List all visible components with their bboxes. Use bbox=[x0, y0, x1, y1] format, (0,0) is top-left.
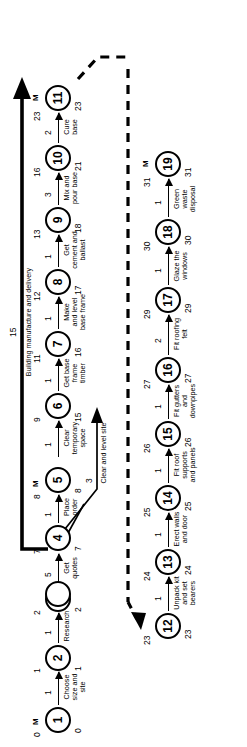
node-5-earliest: 8 bbox=[32, 494, 42, 499]
arrow-14-15 bbox=[168, 449, 169, 483]
node-7-earliest: 11 bbox=[32, 354, 42, 363]
arrow-10-11 bbox=[58, 113, 59, 143]
node-10-latest: 21 bbox=[73, 162, 83, 171]
arrow-3-4 bbox=[58, 554, 59, 584]
arrow-5-6 bbox=[58, 421, 59, 457]
node-2[interactable]: 2 bbox=[45, 645, 71, 671]
duration-3-4: 5 bbox=[43, 572, 53, 577]
activity-label-3-4: Get quotes bbox=[63, 549, 79, 587]
node-1[interactable]: 1 bbox=[45, 707, 71, 733]
arrow-16-17 bbox=[168, 315, 169, 355]
activity-label-6-7: Get base frame timber bbox=[63, 351, 88, 395]
pert-network-diagram: 1 0 M 0 1 Choose size and site 2 1 1 1 R… bbox=[0, 0, 247, 747]
arrow-2-3 bbox=[58, 613, 59, 643]
duration-17-18: 1 bbox=[153, 268, 163, 273]
node-3-earliest: 2 bbox=[32, 610, 42, 615]
node-13-earliest: 24 bbox=[142, 572, 152, 581]
duration-14-15: 1 bbox=[153, 468, 163, 473]
node-2-latest: 1 bbox=[73, 666, 83, 671]
node-8-earliest: 12 bbox=[32, 292, 42, 301]
node-19[interactable]: 19 bbox=[155, 151, 181, 177]
node-1-latest: 0 bbox=[73, 728, 83, 733]
duration-5-6: 1 bbox=[43, 442, 53, 447]
activity-label-18-19: Green waste disposal bbox=[173, 175, 198, 223]
node-6[interactable]: 6 bbox=[45, 393, 71, 419]
node-14-latest: 25 bbox=[183, 502, 193, 511]
node-4-earliest: 7 bbox=[32, 549, 42, 554]
node-11-milestone-flag: M bbox=[31, 94, 40, 101]
duration-8-9: 1 bbox=[43, 254, 53, 259]
duration-12-13: 1 bbox=[153, 596, 163, 601]
duration-1-2: 1 bbox=[43, 690, 53, 695]
activity-label-17-18: Glaze the windows bbox=[173, 241, 189, 291]
duration-13-14: 1 bbox=[153, 532, 163, 537]
activity-label-5-11: Building manufacture and delivery bbox=[25, 227, 33, 417]
arrow-8-9 bbox=[58, 235, 59, 267]
node-14[interactable]: 14 bbox=[155, 485, 181, 511]
node-7-latest: 16 bbox=[73, 348, 83, 357]
node-16-earliest: 27 bbox=[142, 380, 152, 389]
node-12[interactable]: 12 bbox=[155, 613, 181, 639]
activity-label-10-11: Cure base bbox=[63, 107, 79, 147]
duration-15-16: 1 bbox=[153, 404, 163, 409]
arrow-12-13 bbox=[168, 577, 169, 611]
activity-label-9-10: Mix and pour base bbox=[63, 165, 79, 211]
node-1-earliest: 0 bbox=[32, 732, 42, 737]
node-7[interactable]: 7 bbox=[45, 331, 71, 357]
node-15-earliest: 26 bbox=[142, 444, 152, 453]
node-18-earliest: 30 bbox=[142, 242, 152, 251]
node-15-latest: 26 bbox=[183, 438, 193, 447]
node-15[interactable]: 15 bbox=[155, 421, 181, 447]
duration-2-3: 1 bbox=[43, 630, 53, 635]
node-5[interactable]: 5 bbox=[45, 467, 71, 493]
node-12-latest: 23 bbox=[183, 630, 193, 639]
arrow-9-10 bbox=[58, 173, 59, 205]
node-19-latest: 31 bbox=[183, 168, 193, 177]
node-13-latest: 24 bbox=[183, 566, 193, 575]
activity-label-8-9: Get cement and ballast bbox=[63, 227, 88, 273]
arrow-7-8 bbox=[58, 297, 59, 329]
node-5-latest: 8 bbox=[73, 488, 83, 493]
node-9[interactable]: 9 bbox=[45, 207, 71, 233]
node-19-earliest: 31 bbox=[142, 178, 152, 187]
node-17-earliest: 29 bbox=[142, 310, 152, 319]
node-14-earliest: 25 bbox=[142, 508, 152, 517]
duration-6-7: 1 bbox=[43, 378, 53, 383]
activity-label-1-2: Choose size and site bbox=[63, 667, 88, 707]
node-4[interactable]: 4 bbox=[45, 525, 71, 551]
duration-5-11: 15 bbox=[8, 328, 18, 337]
node-11[interactable]: 11 bbox=[45, 85, 71, 111]
node-10[interactable]: 10 bbox=[45, 145, 71, 171]
node-6-latest: 15 bbox=[73, 413, 83, 422]
activity-label-2-3: Research bbox=[63, 605, 71, 647]
duration-4-5: 1 bbox=[43, 512, 53, 517]
duration-18-19: 1 bbox=[153, 200, 163, 205]
node-17-latest: 29 bbox=[183, 304, 193, 313]
duration-5-7: 3 bbox=[84, 478, 94, 483]
activity-label-4-5: Place order bbox=[63, 489, 79, 525]
node-17[interactable]: 17 bbox=[155, 287, 181, 313]
node-18[interactable]: 18 bbox=[155, 219, 181, 245]
node-4-spacer bbox=[45, 581, 71, 607]
node-13[interactable]: 13 bbox=[155, 549, 181, 575]
node-3-latest: 2 bbox=[73, 607, 83, 612]
node-6-earliest: 9 bbox=[32, 417, 42, 422]
node-11-latest: 23 bbox=[73, 102, 83, 111]
arrow-15-16 bbox=[168, 385, 169, 419]
activity-label-5-7: Clear and level site bbox=[100, 405, 108, 501]
arrow-13-14 bbox=[168, 513, 169, 547]
activity-label-13-14: Erect walls and door bbox=[173, 505, 189, 553]
node-11-earliest: 23 bbox=[32, 112, 42, 121]
node-16[interactable]: 16 bbox=[155, 357, 181, 383]
node-2-earliest: 1 bbox=[32, 668, 42, 673]
arrow-18-19 bbox=[168, 179, 169, 217]
arrow-4-5 bbox=[58, 495, 59, 523]
duration-16-17: 2 bbox=[153, 338, 163, 343]
node-5-milestone-flag: M bbox=[31, 480, 40, 487]
duration-10-11: 2 bbox=[43, 130, 53, 135]
arrow-17-18 bbox=[168, 247, 169, 285]
node-1-milestone-flag: M bbox=[31, 718, 40, 725]
node-8[interactable]: 8 bbox=[45, 269, 71, 295]
node-16-latest: 27 bbox=[183, 374, 193, 383]
arrow-1-2 bbox=[58, 672, 59, 705]
